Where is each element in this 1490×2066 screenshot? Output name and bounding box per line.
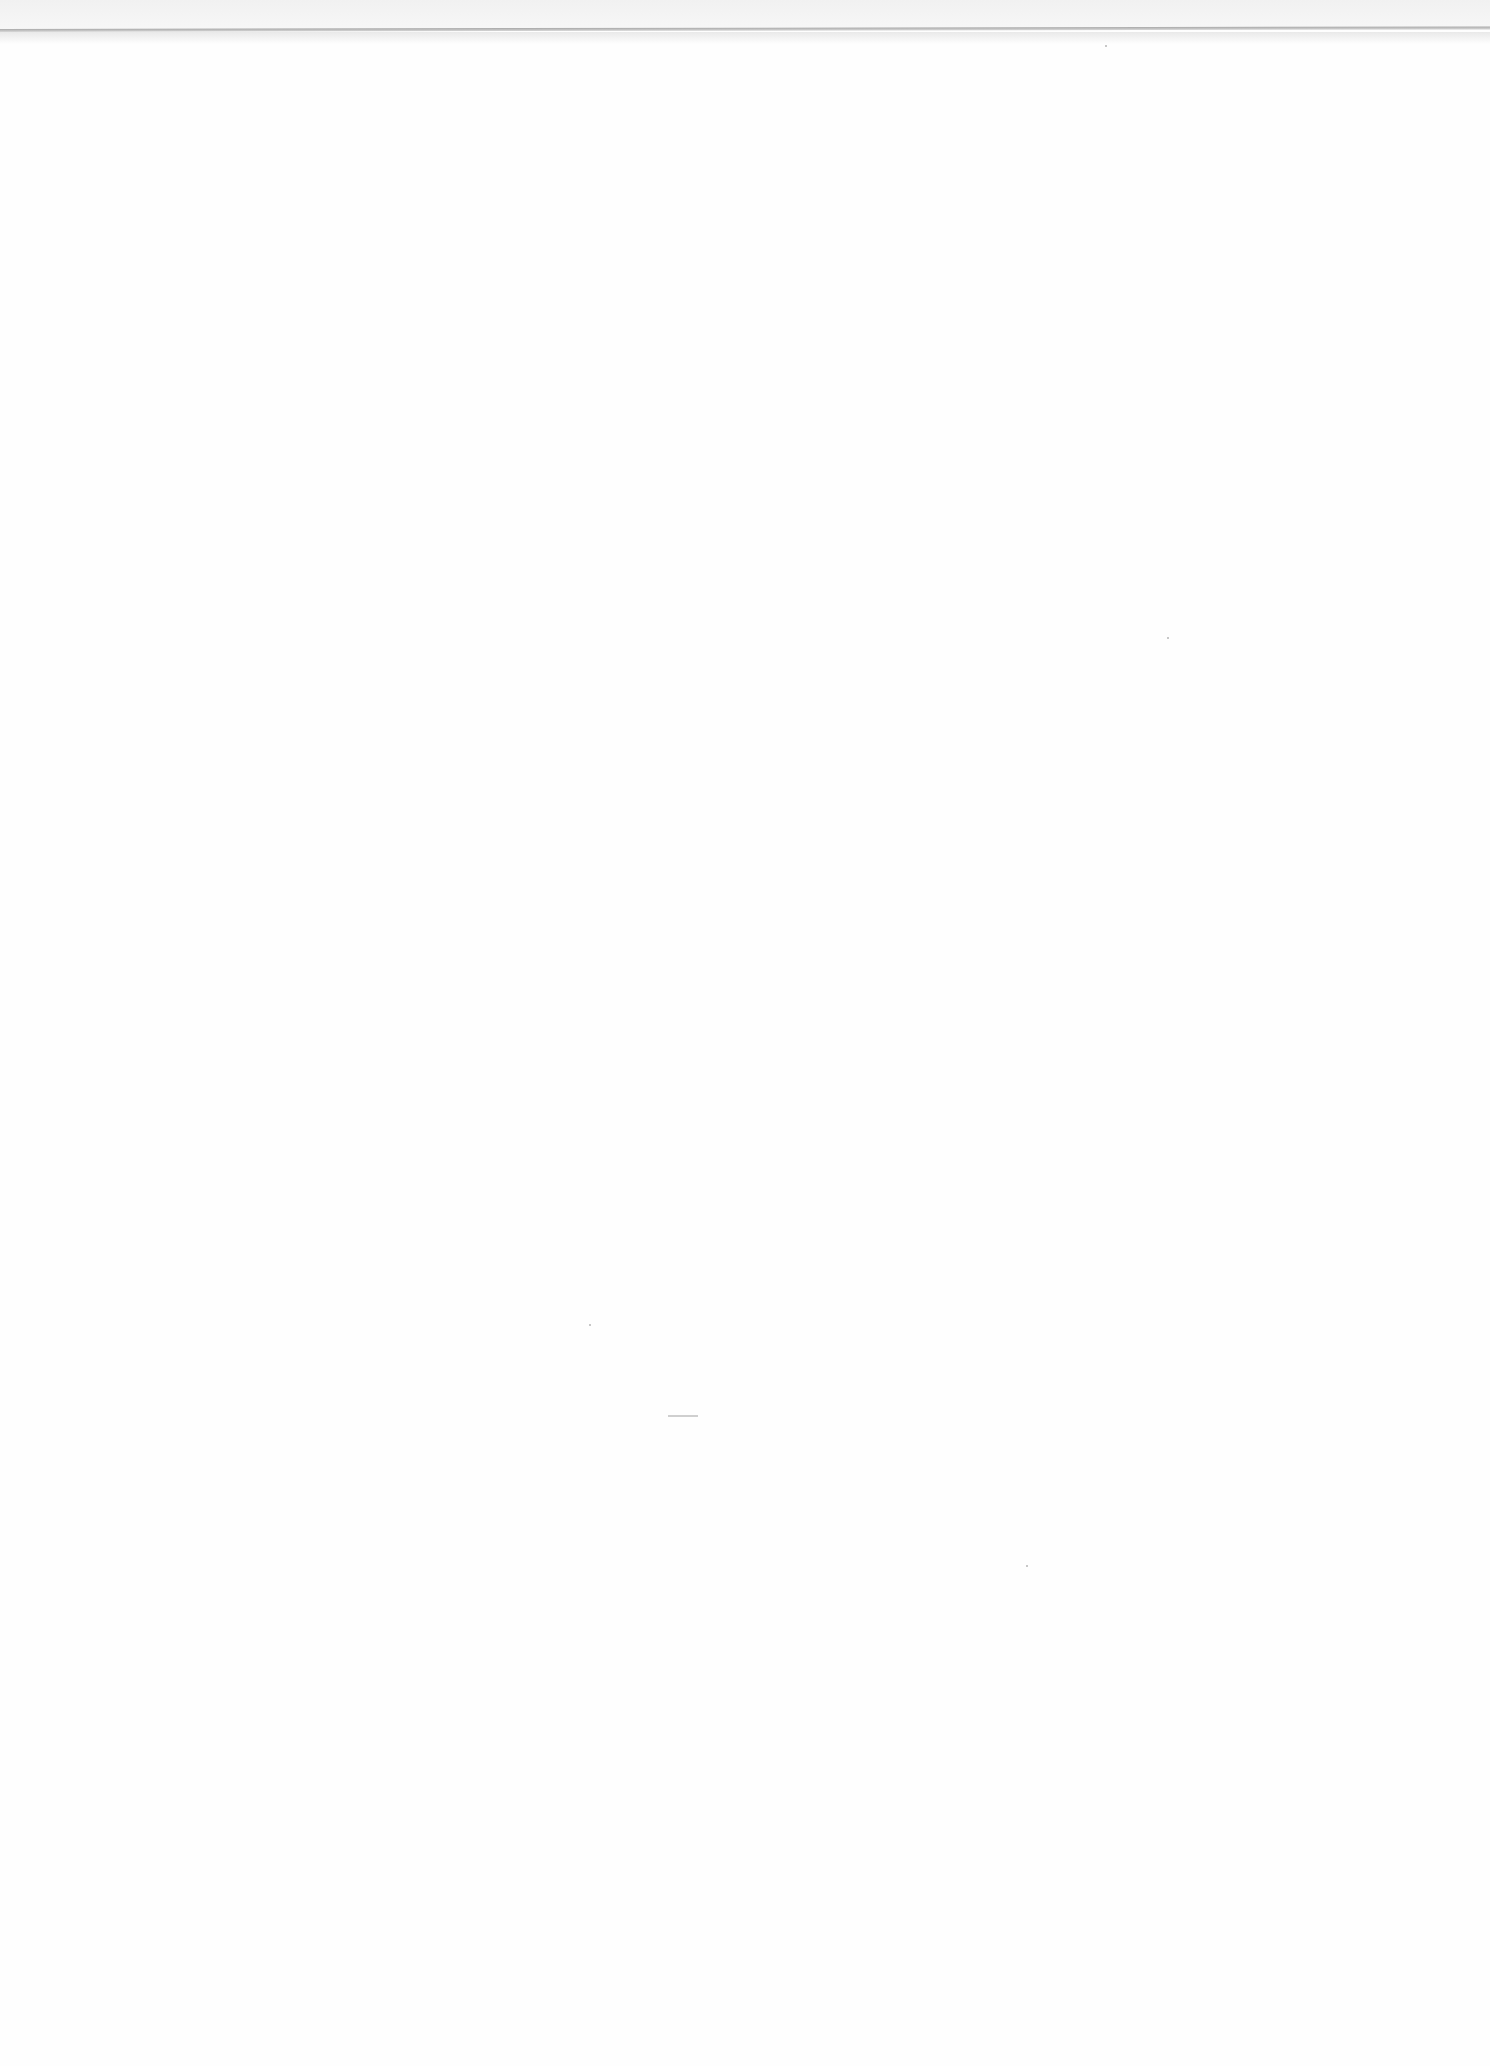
scan-speck <box>1105 45 1107 47</box>
scan-speck <box>1167 637 1169 639</box>
page-edge-shadow <box>0 32 1490 44</box>
scan-speck <box>589 1324 591 1326</box>
scan-mark <box>668 1415 698 1417</box>
page-top-band <box>0 0 1490 30</box>
scan-speck <box>1026 1565 1028 1567</box>
